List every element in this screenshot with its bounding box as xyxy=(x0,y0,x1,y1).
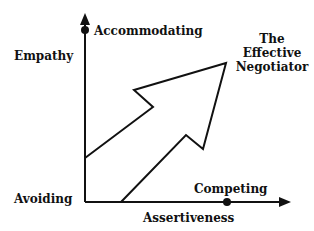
competing-label: Competing xyxy=(194,182,268,196)
assertiveness-axis-label: Assertiveness xyxy=(142,211,235,225)
y-axis-arrowhead-icon xyxy=(80,13,90,25)
negotiator-label-line3: Negotiator xyxy=(236,60,309,74)
x-axis-arrowhead-icon xyxy=(279,197,291,207)
negotiator-label-line1: The xyxy=(259,32,285,46)
empathy-axis-label: Empathy xyxy=(14,49,74,63)
accommodating-point xyxy=(81,26,89,34)
negotiation-style-diagram: Accommodating Empathy Avoiding Competing… xyxy=(0,0,314,231)
negotiator-label-line2: Effective xyxy=(243,46,302,60)
avoiding-label: Avoiding xyxy=(13,192,73,206)
competing-point xyxy=(223,198,231,206)
accommodating-label: Accommodating xyxy=(93,24,203,38)
